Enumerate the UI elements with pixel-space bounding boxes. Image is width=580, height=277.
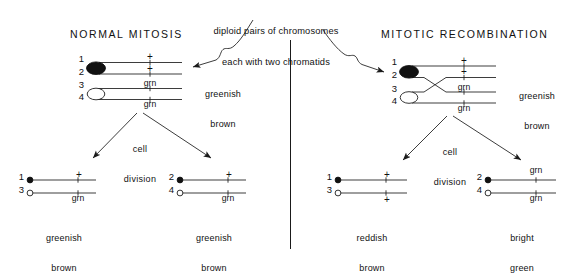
centromere-dot-open-l4 xyxy=(177,190,183,196)
daughter-right-a-phenotype: reddish brown xyxy=(341,213,403,277)
annotation-line-2: each with two chromatids xyxy=(196,57,356,67)
centromere-filled-left xyxy=(87,62,106,75)
cell-division-line-1: cell xyxy=(420,147,480,157)
allele-label-4: grn xyxy=(134,100,166,110)
allele-label-2: + xyxy=(141,63,159,74)
daughter-right-b-number-4: 4 xyxy=(470,185,482,196)
allele-label-3: grn xyxy=(134,79,166,89)
chromatid-number-1: 1 xyxy=(72,54,84,65)
phenotype-line-1: reddish xyxy=(341,233,403,243)
r-chromatid-number-2: 2 xyxy=(385,70,397,81)
r-centromere-open xyxy=(400,92,418,104)
daughter-left-b-allele-2: + xyxy=(220,169,238,180)
daughter-right-b-allele-2: grn xyxy=(520,166,552,176)
chromatid-number-4: 4 xyxy=(72,92,84,103)
daughter-right-b-number-2: 2 xyxy=(470,172,482,183)
r-allele-label-1: + xyxy=(455,55,473,66)
centromere-dot-open-l3 xyxy=(27,190,33,196)
daughter-right-a-allele-1: + xyxy=(378,169,396,180)
panel-title-mitotic-recombination: MITOTIC RECOMBINATION xyxy=(381,29,548,41)
phenotype-line-1: greenish xyxy=(33,233,95,243)
r-centromere-filled xyxy=(400,66,419,79)
daughter-right-a-allele-3: + xyxy=(378,194,396,205)
phenotype-line-2: brown xyxy=(506,121,568,131)
annotation-line-1: diploid pairs of chromosomes xyxy=(196,26,356,36)
phenotype-line-1: bright xyxy=(491,233,553,243)
phenotype-line-1: greenish xyxy=(183,233,245,243)
allele-label-1: + xyxy=(141,51,159,62)
centromere-open-left xyxy=(87,88,105,100)
cell-division-line-2: division xyxy=(110,174,170,184)
daughter-left-b-allele-4: grn xyxy=(212,194,244,204)
centromere-dot-filled-r2 xyxy=(485,177,491,183)
parent-phenotype-left: greenish brown xyxy=(192,69,254,150)
chromatid-number-2: 2 xyxy=(72,67,84,78)
phenotype-line-2: brown xyxy=(192,119,254,129)
daughter-left-b-number-2: 2 xyxy=(162,172,174,183)
cell-division-label-left: cell division xyxy=(110,124,170,205)
daughter-right-a-number-3: 3 xyxy=(320,185,332,196)
centromere-dot-open-r4 xyxy=(485,190,491,196)
phenotype-line-1: greenish xyxy=(506,91,568,101)
r-allele-label-4: grn xyxy=(448,104,480,114)
daughter-right-b-phenotype: bright green xyxy=(491,213,553,277)
daughter-left-b-phenotype: greenish brown xyxy=(183,213,245,277)
phenotype-line-2: brown xyxy=(33,263,95,273)
r-chromatid-number-3: 3 xyxy=(385,84,397,95)
cell-division-line-1: cell xyxy=(110,144,170,154)
phenotype-line-1: greenish xyxy=(192,89,254,99)
phenotype-line-2: brown xyxy=(341,263,403,273)
r-allele-label-3: grn xyxy=(448,83,480,93)
daughter-left-a-number-3: 3 xyxy=(12,185,24,196)
daughter-right-b-allele-4: grn xyxy=(520,194,552,204)
daughter-right-a-number-1: 1 xyxy=(320,172,332,183)
r-chromatid-number-4: 4 xyxy=(385,96,397,107)
daughter-left-a-number-1: 1 xyxy=(12,172,24,183)
r-allele-label-2: + xyxy=(455,66,473,77)
phenotype-line-2: green xyxy=(491,263,553,273)
daughter-left-a-allele-1: + xyxy=(70,169,88,180)
daughter-left-b-number-4: 4 xyxy=(162,185,174,196)
chromatid-number-3: 3 xyxy=(72,80,84,91)
daughter-left-a-allele-3: grn xyxy=(62,194,94,204)
centromere-dot-filled-l2 xyxy=(177,177,183,183)
r-chromatid-number-1: 1 xyxy=(385,57,397,68)
centromere-dot-open-r3 xyxy=(335,190,341,196)
daughter-left-a-phenotype: greenish brown xyxy=(33,213,95,277)
centromere-dot-filled-l1 xyxy=(27,177,33,183)
parent-phenotype-right: greenish brown xyxy=(506,71,568,152)
phenotype-line-2: brown xyxy=(183,263,245,273)
panel-title-normal-mitosis: NORMAL MITOSIS xyxy=(70,29,183,41)
centromere-dot-filled-r1 xyxy=(335,177,341,183)
